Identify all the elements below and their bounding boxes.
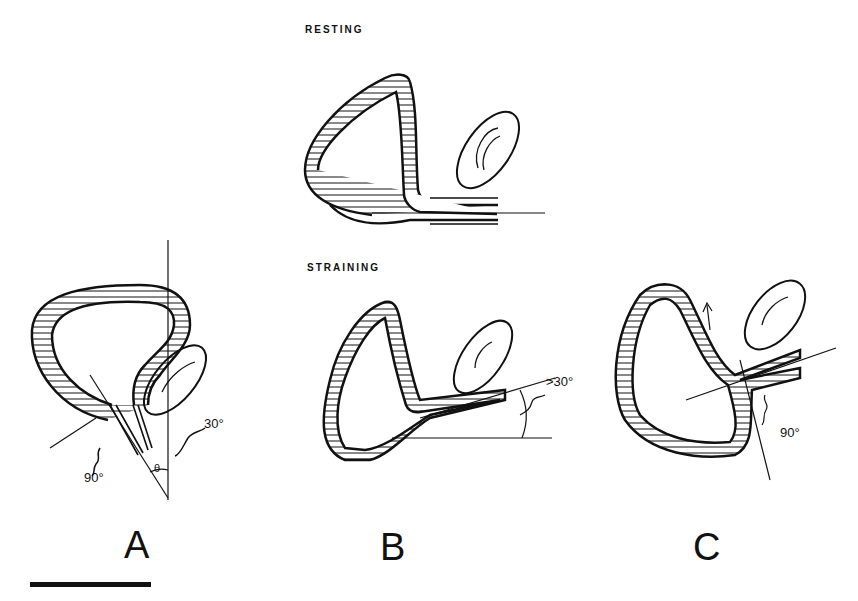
caption-straining: STRAINING (307, 262, 380, 273)
panel-a-angle-30: 30° (204, 416, 224, 431)
diagram-canvas (0, 0, 858, 601)
panel-label-c: C (693, 526, 720, 569)
panel-a-bladder (32, 285, 190, 420)
panel-b-bladder (324, 302, 505, 460)
panel-label-b: B (380, 526, 405, 569)
panel-b-pubic-bone (443, 311, 524, 403)
panel-c-pubic-bone (733, 270, 817, 360)
resting-pubic-bone (445, 101, 532, 198)
caption-resting: RESTING (305, 24, 363, 35)
panel-label-a: A (124, 524, 149, 567)
panel-a-theta-symbol: θ (154, 462, 160, 474)
panel-c-angle-90: 90° (780, 425, 800, 440)
panel-b-angle-gt30: >30° (546, 374, 573, 389)
resting-bladder (305, 75, 545, 224)
panel-a-angle-90: 90° (84, 470, 104, 485)
scale-bar (30, 582, 151, 587)
